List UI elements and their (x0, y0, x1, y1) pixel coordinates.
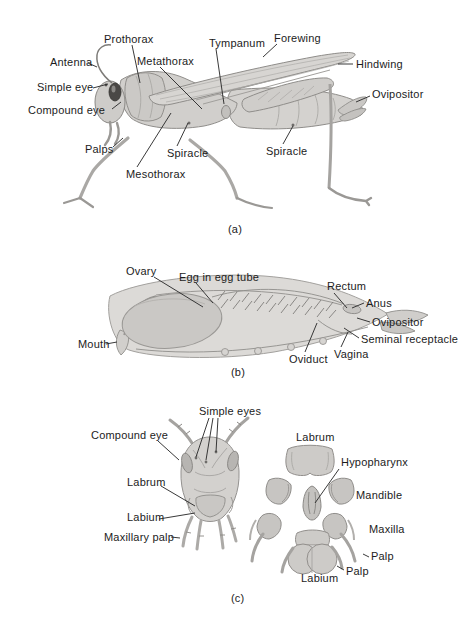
label-egg-in-egg-tube: Egg in egg tube (179, 271, 259, 283)
grasshopper-anatomy-figure: Prothorax Antenna Metathorax Tympanum Fo… (0, 0, 472, 634)
labium-base (296, 530, 330, 545)
label-tympanum: Tympanum (209, 37, 265, 49)
label-ovary: Ovary (126, 265, 156, 277)
label-palps: Palps (85, 143, 114, 155)
labrum-mouthpart-shape (286, 445, 334, 475)
maxillary-palp-right (341, 534, 355, 561)
head-palps (219, 521, 223, 548)
caption-b: (b) (231, 366, 245, 378)
tympanum-shape (222, 106, 231, 119)
label-labrum-mouthpart: Labrum (296, 431, 335, 443)
label-seminal-receptacle: Seminal receptacle (361, 333, 458, 345)
label-mesothorax: Mesothorax (126, 168, 185, 180)
label-anus: Anus (366, 297, 392, 309)
label-mouth: Mouth (78, 338, 110, 350)
label-spiracle-left: Spiracle (167, 147, 208, 159)
maxillary-palp-left (252, 534, 263, 561)
antenna-shape (97, 45, 112, 83)
label-prothorax: Prothorax (104, 33, 154, 45)
head-front-illustration (170, 418, 248, 549)
mandible-right (329, 478, 354, 504)
label-rectum: Rectum (327, 280, 366, 292)
label-maxilla: Maxilla (369, 523, 405, 535)
label-antenna: Antenna (50, 56, 92, 68)
label-labium-mouthpart: Labium (301, 572, 338, 584)
hypopharynx-shape (303, 486, 321, 520)
label-compound-eye-a: Compound eye (28, 104, 105, 116)
head-palps (183, 517, 192, 546)
label-compound-eye-c: Compound eye (91, 429, 168, 441)
label-metathorax: Metathorax (137, 55, 194, 67)
label-simple-eyes: Simple eyes (199, 405, 261, 417)
label-ovipositor-a: Ovipositor (372, 88, 424, 100)
label-forewing: Forewing (274, 32, 321, 44)
label-palp-maxillary: Palp (371, 550, 394, 562)
mandible-left (266, 478, 291, 504)
label-maxillary-palp: Maxillary palp (104, 531, 174, 543)
mouthparts-illustration (250, 445, 355, 574)
compound-eye-shape (109, 83, 121, 101)
label-oviduct: Oviduct (289, 353, 328, 365)
label-hindwing: Hindwing (356, 58, 403, 70)
caption-a: (a) (228, 223, 242, 235)
label-labrum-head: Labrum (127, 476, 166, 488)
label-mandible: Mandible (356, 489, 402, 501)
label-palp-labial: Palp (346, 565, 369, 577)
label-vagina: Vagina (334, 348, 369, 360)
hind-leg-tibia (329, 84, 331, 188)
ocellus (195, 457, 198, 460)
label-ovipositor-b: Ovipositor (372, 316, 424, 328)
antenna-right (225, 418, 248, 444)
ocellus (205, 461, 208, 464)
palps-shape (105, 122, 119, 145)
label-labium-head: Labium (127, 511, 164, 523)
caption-c: (c) (231, 592, 244, 604)
label-spiracle-right: Spiracle (266, 145, 307, 157)
grasshopper-side-illustration (64, 45, 371, 208)
label-simple-eye: Simple eye (37, 81, 93, 93)
head-palps (197, 521, 201, 549)
antenna-left (170, 420, 194, 446)
label-hypopharynx: Hypopharynx (341, 456, 408, 468)
